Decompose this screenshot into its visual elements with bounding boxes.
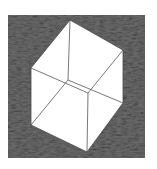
necker-cube-figure	[0, 0, 157, 169]
